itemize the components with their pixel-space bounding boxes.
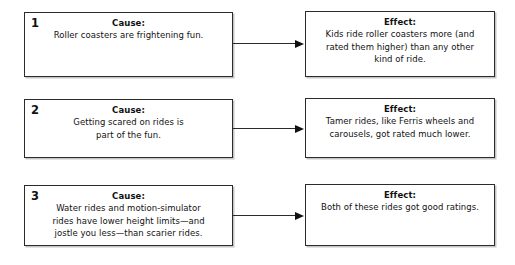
cause-text: Water rides and motion-simulator rides h… xyxy=(45,202,211,240)
arrow-shaft xyxy=(233,215,297,216)
effect-heading: Effect: xyxy=(384,103,416,115)
cause-text: Getting scared on rides is part of the f… xyxy=(66,116,190,141)
cause-box[interactable]: 3 Cause: Water rides and motion-simulato… xyxy=(24,185,233,246)
row-number: 3 xyxy=(31,190,39,203)
cause-box[interactable]: 2 Cause: Getting scared on rides is part… xyxy=(24,99,233,158)
effect-heading: Effect: xyxy=(384,189,416,201)
effect-box[interactable]: Effect: Tamer rides, like Ferris wheels … xyxy=(305,98,495,158)
cause-effect-diagram: 1 Cause: Roller coasters are frightening… xyxy=(0,0,515,265)
cause-heading: Cause: xyxy=(112,190,145,202)
arrow-head xyxy=(295,125,304,133)
arrow-right-icon xyxy=(233,211,306,221)
diagram-row: 3 Cause: Water rides and motion-simulato… xyxy=(0,0,515,90)
arrow-right-icon xyxy=(233,124,306,134)
arrow-head xyxy=(295,212,304,220)
effect-box[interactable]: Effect: Both of these rides got good rat… xyxy=(305,184,495,246)
arrow-shaft xyxy=(233,128,297,129)
effect-text: Tamer rides, like Ferris wheels and caro… xyxy=(319,115,481,140)
effect-text: Both of these rides got good ratings. xyxy=(314,201,486,214)
row-number: 2 xyxy=(31,104,39,117)
cause-heading: Cause: xyxy=(112,104,145,116)
